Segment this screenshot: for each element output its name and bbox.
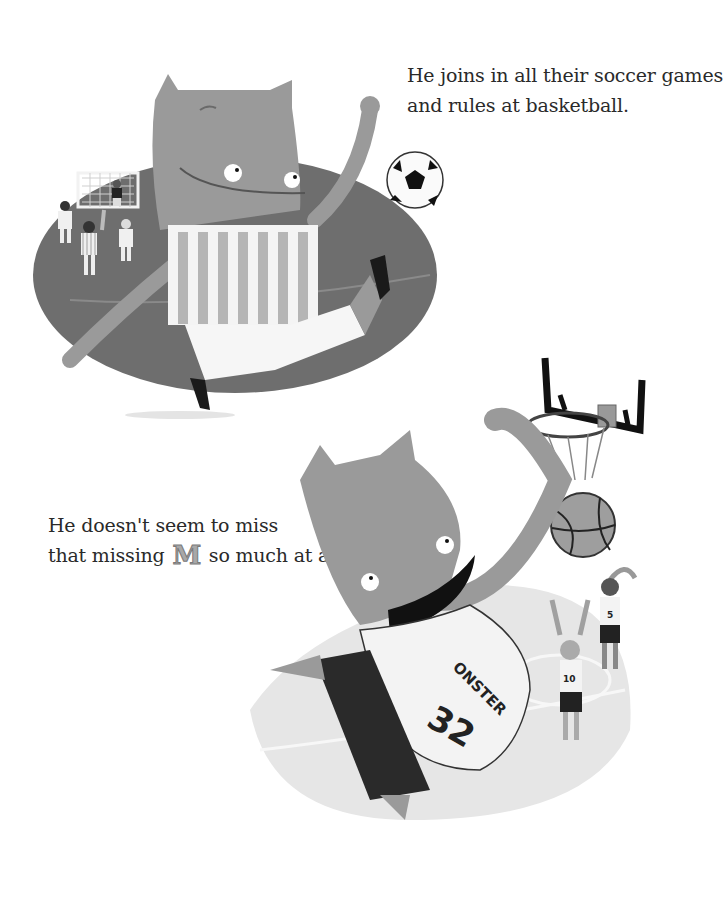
monster-eye-right [284, 172, 300, 188]
basketball-illustration: ONSTER 32 10 5 [230, 350, 690, 830]
soccer-ball-icon [387, 152, 443, 208]
monster-eye-left [361, 573, 379, 591]
line-2-before: that missing [48, 544, 165, 566]
striped-jersey [168, 225, 318, 325]
missing-letter-m: M [172, 540, 201, 570]
monster-eye-left [224, 164, 242, 182]
goalkeeper-icon [112, 180, 122, 206]
monster-eye-right [436, 536, 454, 554]
monster-head [152, 74, 300, 230]
player-5-icon: 5 [600, 569, 635, 669]
player-5-number: 5 [607, 610, 613, 620]
player-10-number: 10 [563, 674, 576, 684]
